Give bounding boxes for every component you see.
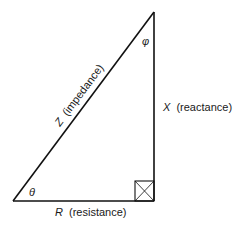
hypotenuse-text: (impedance): [60, 62, 106, 118]
right-angle-marker: [135, 181, 154, 201]
angle-theta-label: θ: [29, 186, 35, 198]
hypotenuse-symbol: Z: [51, 115, 66, 129]
base-label: R (resistance): [55, 206, 126, 218]
base-symbol: R: [55, 206, 63, 218]
angle-phi-label: φ: [142, 35, 149, 47]
base-text: (resistance): [69, 206, 126, 218]
vertical-side-symbol: X: [162, 101, 171, 113]
hypotenuse-label: Z (impedance): [51, 62, 105, 129]
impedance-triangle-diagram: φ θ Z (impedance) X (reactance) R (resis…: [0, 0, 233, 228]
vertical-side-label: X (reactance): [162, 101, 232, 113]
hypotenuse-line: [13, 12, 154, 201]
svg-text:Z (impedance): Z (impedance): [51, 62, 105, 129]
vertical-side-text: (reactance): [176, 101, 232, 113]
